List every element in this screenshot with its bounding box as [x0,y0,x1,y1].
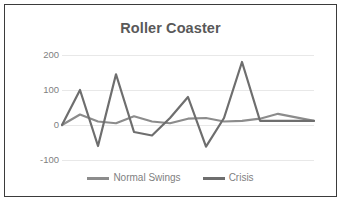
y-axis-tick-0: 0 [54,120,59,130]
y-axis-tick-labels: 2001000-100 [19,55,59,160]
chart-area-border: Roller Coaster 2001000-100 Normal Swings… [4,4,337,197]
legend-label: Crisis [229,173,254,183]
legend-item-normal-swings[interactable]: Normal Swings [87,173,180,183]
legend-swatch-icon [87,177,109,180]
chart-container: Roller Coaster 2001000-100 Normal Swings… [0,0,341,201]
chart-legend: Normal SwingsCrisis [5,173,336,183]
legend-swatch-icon [203,177,225,180]
series-lines [62,55,314,160]
y-axis-tick-200: 200 [43,50,59,60]
chart-title: Roller Coaster [5,21,336,36]
series-line-crisis [62,62,314,147]
y-axis-tick-100: 100 [43,85,59,95]
gridline [62,160,314,161]
legend-label: Normal Swings [113,173,180,183]
y-axis-tick--100: -100 [40,155,59,165]
plot-area [62,55,314,160]
series-line-normal-swings [62,114,314,125]
legend-item-crisis[interactable]: Crisis [203,173,254,183]
